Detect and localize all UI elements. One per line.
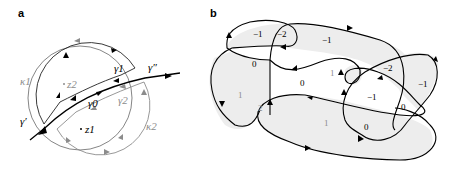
arrow-icon (291, 65, 297, 71)
region-number: 2 (258, 103, 263, 113)
arrow-icon (63, 52, 69, 58)
shaded-region (390, 53, 438, 110)
region-number: −1 (322, 35, 332, 45)
panel-a-label: a (18, 7, 25, 19)
z1-point (80, 128, 82, 130)
region-number: 0 (252, 59, 257, 69)
arrow-icon (66, 137, 71, 143)
arrow-icon (56, 92, 60, 98)
kappa2-label: κ2 (146, 120, 157, 132)
panel-a: a κ1 κ2 γ1 γ0 γ2 γ′ γ″ z2 (18, 7, 180, 155)
region-number: −1 (253, 29, 263, 39)
region-number: −1 (418, 79, 428, 89)
gamma2-label: γ2 (118, 94, 128, 106)
arrow-icon (341, 89, 347, 95)
region-number: 1 (238, 90, 243, 100)
region-number: −1 (367, 92, 377, 102)
gamma-prime-label: γ′ (20, 115, 27, 127)
region-number: −2 (383, 63, 393, 73)
panel-b: b (210, 7, 439, 160)
arrow-icon (377, 75, 383, 80)
gamma-dprime-label: γ″ (148, 61, 157, 73)
region-number: −2 (277, 29, 287, 39)
region-number: 1 (324, 118, 329, 128)
gamma1-label: γ1 (114, 62, 124, 74)
arrow-icon (96, 91, 103, 96)
gamma0-label: γ0 (88, 97, 98, 109)
panel-b-label: b (210, 7, 217, 19)
kappa1-label: κ1 (20, 75, 31, 87)
arrow-icon (118, 134, 123, 140)
z2-point (63, 83, 65, 85)
z1-label: z1 (84, 123, 95, 135)
region-number: 0 (300, 78, 305, 88)
region-number: 1 (330, 68, 335, 78)
figure: a κ1 κ2 γ1 γ0 γ2 γ′ γ″ z2 (0, 0, 455, 169)
shaded-region (258, 95, 433, 160)
arrow-icon (338, 69, 344, 75)
gamma-path (30, 73, 180, 140)
region-number: 0 (401, 102, 406, 112)
region-number: 0 (364, 122, 369, 132)
arrow-icon (74, 38, 80, 43)
arrow-icon (113, 78, 119, 83)
arrow-icon (347, 25, 353, 31)
arrow-icon (226, 32, 232, 38)
z2-label: z2 (66, 78, 77, 90)
arrow-icon (141, 89, 147, 95)
